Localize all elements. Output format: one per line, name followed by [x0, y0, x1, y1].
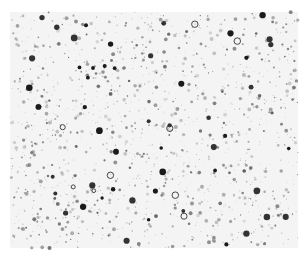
speckle-image — [0, 0, 305, 258]
